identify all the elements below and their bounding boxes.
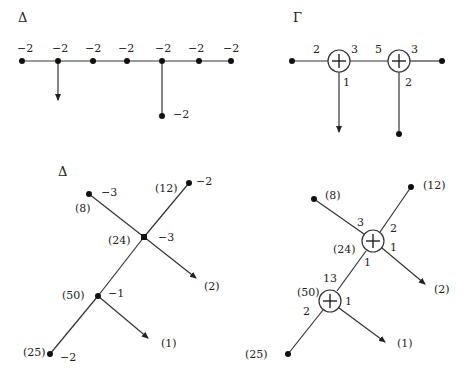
edge-weight-label: 2 xyxy=(390,222,397,235)
vertex xyxy=(159,58,165,64)
edge-weight-label: 5 xyxy=(375,43,382,56)
splice-circle-1 xyxy=(328,50,350,72)
multiplicity-label: (24) xyxy=(108,234,131,247)
panel-gamma-splice: Γ 2 3 1 5 3 2 xyxy=(289,10,445,137)
arrow-edge xyxy=(382,248,425,284)
vertex xyxy=(95,293,101,299)
panel-delta-chain: Δ −2 −2 −2 −2 −2 −2 −2 −2 xyxy=(17,10,239,121)
edge-weight-label: 3 xyxy=(411,43,418,56)
vertex xyxy=(408,184,414,190)
vertex xyxy=(124,58,130,64)
multiplicity-label: (25) xyxy=(23,346,46,359)
weight-label: −2 xyxy=(155,42,171,55)
vertex xyxy=(285,351,291,357)
edge xyxy=(50,296,98,354)
edge xyxy=(89,194,144,237)
vertex xyxy=(228,58,234,64)
edge-weight-label: 13 xyxy=(323,272,337,285)
edge-weight-label: 1 xyxy=(364,256,371,269)
arrow-edge xyxy=(339,308,385,342)
multiplicity-label: (24) xyxy=(333,243,356,256)
weight-label: −2 xyxy=(196,175,212,188)
weight-label: −2 xyxy=(60,351,76,364)
weight-label: −3 xyxy=(158,231,174,244)
splice-circle-upper xyxy=(362,230,384,252)
panel-splice-resolution: (8) (12) (24) (50) (25) (2) (1) 3 2 1 1 … xyxy=(245,179,450,361)
vertex xyxy=(159,113,165,119)
multiplicity-label: (50) xyxy=(297,286,320,299)
vertex xyxy=(55,58,61,64)
weight-label: −2 xyxy=(52,42,68,55)
vertex xyxy=(396,131,402,137)
weight-label: −1 xyxy=(108,287,124,300)
panel-title-delta: Δ xyxy=(58,164,67,179)
arrow-label: (2) xyxy=(204,280,220,293)
arrow-label: (1) xyxy=(161,337,177,350)
edge-weight-label: 2 xyxy=(303,305,310,318)
arrow-label: (2) xyxy=(434,283,450,296)
edge-weight-label: 3 xyxy=(357,216,364,229)
arrow-edge xyxy=(98,296,148,338)
multiplicity-label: (50) xyxy=(62,289,85,302)
weight-label: −2 xyxy=(118,42,134,55)
multiplicity-label: (8) xyxy=(75,202,91,215)
edge-weight-label: 2 xyxy=(313,43,320,56)
arrow-label: (1) xyxy=(397,337,413,350)
edge-weight-label: 1 xyxy=(345,295,352,308)
multiplicity-label: (8) xyxy=(325,189,341,202)
edge-weight-label: 3 xyxy=(351,43,358,56)
multiplicity-label: (12) xyxy=(423,179,446,192)
weight-label: −2 xyxy=(85,42,101,55)
panel-delta-resolution: Δ −3 (8) (12) −2 (24) −3 (50) −1 (25) −2… xyxy=(23,164,220,364)
weight-label: −2 xyxy=(173,108,189,121)
multiplicity-label: (12) xyxy=(155,182,178,195)
multiplicity-label: (25) xyxy=(245,348,268,361)
weight-label: −3 xyxy=(101,186,117,199)
vertex xyxy=(439,58,445,64)
panel-title-delta: Δ xyxy=(18,10,27,25)
vertex xyxy=(90,58,96,64)
splice-circle-lower xyxy=(319,290,341,312)
splice-diagram: Δ −2 −2 −2 −2 −2 −2 −2 −2 Γ xyxy=(0,0,470,384)
vertex xyxy=(86,191,92,197)
vertex xyxy=(141,234,147,240)
weight-label: −2 xyxy=(17,42,33,55)
weight-label: −2 xyxy=(188,42,204,55)
weight-label: −2 xyxy=(223,42,239,55)
edge xyxy=(337,251,366,291)
edge-weight-label: 2 xyxy=(405,76,412,89)
vertex xyxy=(289,58,295,64)
vertex xyxy=(186,180,192,186)
splice-circle-2 xyxy=(388,50,410,72)
vertex xyxy=(311,196,317,202)
panel-title-gamma: Γ xyxy=(293,10,302,25)
edge-weight-label: 1 xyxy=(343,76,350,89)
vertex xyxy=(19,58,25,64)
edge-weight-label: 1 xyxy=(390,241,397,254)
vertex xyxy=(47,351,53,357)
vertex xyxy=(196,58,202,64)
